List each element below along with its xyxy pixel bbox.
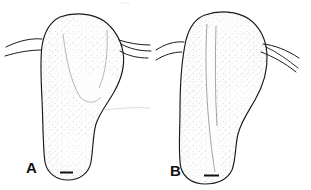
panel-a-left-projection-edge [5, 50, 41, 56]
panel-a-scale-bar [60, 172, 73, 174]
panel-label-a: A [26, 160, 37, 175]
panel-b-scale-bar [204, 175, 219, 177]
scan-artifact [120, 3, 130, 5]
panel-a-stipple [30, 5, 140, 190]
panel-a-artifact-line [104, 108, 150, 110]
panel-a-left-projection [6, 39, 42, 47]
panel-b-left-seta-upper [156, 42, 184, 50]
figure-container: A B [0, 0, 311, 190]
panel-a-right-seta-lower [120, 51, 148, 58]
panel-b-right-seta-inner [266, 47, 298, 68]
panel-a-right-seta-upper [119, 40, 150, 45]
figure-illustration [0, 0, 311, 190]
panel-b-left-seta-lower [156, 52, 182, 60]
panel-label-b: B [170, 163, 181, 178]
panel-b-stipple [170, 5, 280, 190]
